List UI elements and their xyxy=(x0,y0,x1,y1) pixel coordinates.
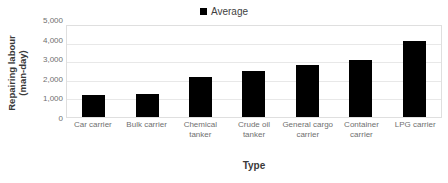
y-axis-title-line-1: Repairing labour xyxy=(6,35,17,110)
y-tick-label: 4,000 xyxy=(33,37,63,45)
y-axis-tick-labels: 5,000 4,000 3,000 2,000 1,000 0 xyxy=(33,21,63,119)
bar-slot xyxy=(388,26,441,117)
bar-slot xyxy=(227,26,280,117)
legend-label-average: Average xyxy=(211,6,248,17)
x-axis-title: Type xyxy=(66,160,442,172)
x-tick-label: Car carrier xyxy=(66,120,120,158)
y-tick-label: 2,000 xyxy=(33,76,63,84)
legend-swatch-average-icon xyxy=(200,8,207,15)
y-axis-title: Repairing labour (man-day) xyxy=(2,20,32,125)
bar-slot xyxy=(334,26,387,117)
x-tick-label: General cargo carrier xyxy=(281,120,335,158)
bar[interactable] xyxy=(403,41,426,117)
y-tick-label: 1,000 xyxy=(33,95,63,103)
bar-slot xyxy=(120,26,173,117)
bar-slot xyxy=(174,26,227,117)
x-tick-label: Container carrier xyxy=(335,120,389,158)
y-tick-label: 5,000 xyxy=(33,17,63,25)
x-tick-label: Crude oil tanker xyxy=(227,120,281,158)
y-axis-title-text: Repairing labour (man-day) xyxy=(6,35,28,110)
bar-slot xyxy=(281,26,334,117)
y-tick-label: 3,000 xyxy=(33,56,63,64)
x-tick-label: Bulk carrier xyxy=(120,120,174,158)
bar[interactable] xyxy=(296,65,319,117)
plot-area xyxy=(66,25,442,118)
bar-slot xyxy=(67,26,120,117)
bar-chart: Average Repairing labour (man-day) 5,000… xyxy=(0,0,448,183)
y-axis-title-line-2: (man-day) xyxy=(17,50,28,95)
x-tick-label: LPG carrier xyxy=(388,120,442,158)
bar[interactable] xyxy=(82,95,105,117)
bar[interactable] xyxy=(136,94,159,117)
x-tick-label: Chemical tanker xyxy=(173,120,227,158)
y-tick-label: 0 xyxy=(33,115,63,123)
x-axis-tick-labels: Car carrier Bulk carrier Chemical tanker… xyxy=(66,120,442,158)
bar[interactable] xyxy=(349,60,372,118)
bar[interactable] xyxy=(242,71,265,117)
chart-legend: Average xyxy=(0,4,448,19)
bar[interactable] xyxy=(189,77,212,117)
bar-series-average xyxy=(67,26,441,117)
